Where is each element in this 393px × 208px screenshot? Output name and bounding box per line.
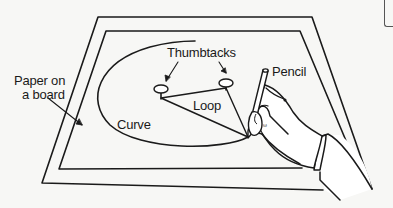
arrow-paper — [48, 98, 82, 125]
label-pencil: Pencil — [272, 65, 306, 79]
page-corner-frame — [384, 0, 393, 27]
label-curve: Curve — [117, 118, 151, 132]
label-paper-line1: Paper on — [14, 74, 62, 88]
label-thumbtacks: Thumbtacks — [167, 46, 236, 60]
thumbtack-left — [154, 85, 168, 93]
thumbtack-right — [219, 79, 233, 87]
svg-text:ω: ω — [263, 122, 267, 128]
label-paper-line2: a board — [14, 88, 62, 102]
hand — [251, 85, 372, 200]
label-paper-on-board: Paper on a board — [14, 74, 62, 102]
label-loop: Loop — [193, 99, 221, 113]
